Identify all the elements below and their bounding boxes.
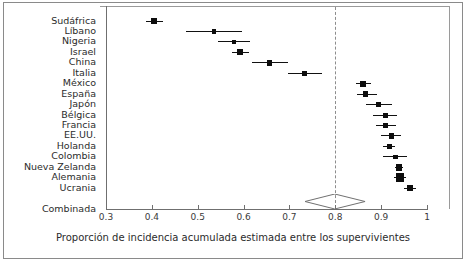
study-effect-marker [267, 60, 272, 65]
study-effect-marker [387, 144, 392, 149]
study-effect-marker [360, 81, 366, 87]
x-tick-mark [152, 205, 153, 210]
study-label: Sudáfrica [51, 16, 96, 26]
study-effect-marker [407, 185, 413, 191]
study-effect-marker [389, 133, 394, 138]
study-effect-marker [302, 71, 307, 76]
study-effect-marker [383, 123, 388, 128]
x-tick-label: 0.9 [374, 212, 388, 222]
forest-plot-figure: SudáfricaLíbanoNigeriaIsraelChinaItaliaM… [0, 0, 466, 262]
panel-left-axis [106, 6, 107, 209]
x-tick-mark [335, 205, 336, 210]
study-effect-marker [363, 91, 369, 97]
study-label: Nigeria [62, 36, 96, 46]
x-tick-label: 0.6 [236, 212, 250, 222]
x-axis-line [106, 209, 428, 210]
study-effect-marker [237, 49, 243, 55]
study-effect-marker [393, 155, 398, 160]
study-label: China [69, 57, 96, 67]
x-tick-label: 0.3 [99, 212, 113, 222]
study-label: Ucrania [60, 183, 96, 193]
x-tick-mark [244, 205, 245, 210]
study-labels-column: SudáfricaLíbanoNigeriaIsraelChinaItaliaM… [0, 0, 96, 210]
x-tick-mark [289, 205, 290, 210]
reference-line [335, 7, 336, 208]
study-effect-marker [376, 102, 381, 107]
study-effect-marker [396, 164, 403, 171]
study-label: Alemania [51, 172, 96, 182]
x-axis-title: Proporción de incidencia acumulada estim… [0, 232, 466, 243]
x-tick-label: 0.7 [282, 212, 296, 222]
x-tick-label: 1 [424, 212, 430, 222]
study-effect-marker [151, 18, 157, 24]
x-tick-mark [427, 205, 428, 210]
study-effect-marker [212, 29, 216, 33]
x-tick-mark [106, 205, 107, 210]
study-label: Japón [70, 99, 97, 109]
x-tick-mark [198, 205, 199, 210]
study-label: EE.UU. [64, 130, 96, 140]
x-tick-label: 0.5 [191, 212, 205, 222]
x-tick-mark [381, 205, 382, 210]
study-label: México [63, 78, 96, 88]
study-effect-marker [383, 113, 388, 118]
x-tick-label: 0.4 [145, 212, 159, 222]
pooled-label: Combinada [42, 204, 96, 214]
study-label: Colombia [51, 151, 96, 161]
study-effect-marker [396, 173, 405, 182]
study-effect-marker [232, 40, 237, 45]
x-tick-label: 0.8 [328, 212, 342, 222]
